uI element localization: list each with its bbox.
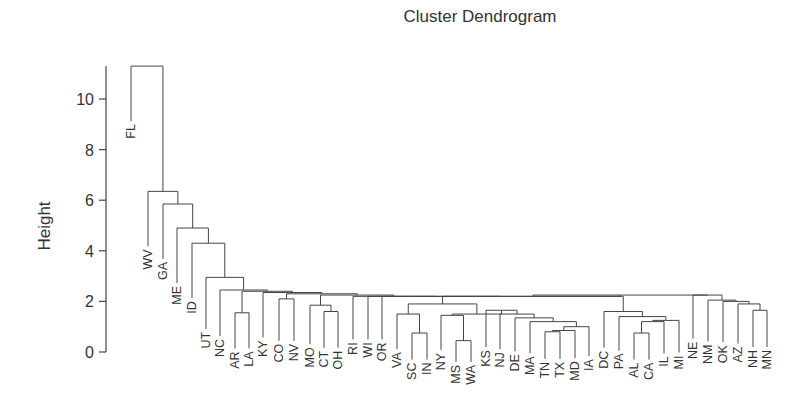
leaf-label: MI: [672, 356, 686, 370]
y-tick-label: 10: [76, 91, 94, 108]
leaf-label: WV: [141, 249, 155, 270]
leaf-label: KY: [256, 340, 270, 357]
leaf-label: OR: [375, 342, 389, 361]
y-tick-label: 8: [85, 142, 94, 159]
leaf-label: TX: [553, 361, 567, 378]
leaf-label: OK: [716, 345, 730, 364]
leaf-label: DC: [597, 351, 611, 369]
y-tick-label: 6: [85, 192, 94, 209]
leaf-label: WA: [464, 364, 478, 384]
leaf-label: OH: [331, 351, 345, 370]
leaf-label: SC: [405, 363, 419, 380]
leaf-label: MD: [568, 361, 582, 380]
leaf-label: LA: [242, 351, 256, 367]
leaf-label: NE: [686, 342, 700, 359]
leaf-label: IL: [657, 356, 671, 366]
leaf-label: NY: [434, 352, 448, 370]
y-axis: 0246810: [76, 66, 106, 361]
leaf-label: RI: [346, 342, 360, 355]
leaf-label: ME: [170, 286, 184, 305]
leaf-label: NC: [213, 339, 227, 357]
leaf-label: NJ: [493, 352, 507, 367]
leaf-labels: ARLACONVCTOHMOSCINVAMSWANYTNTXMDIAMADENJ…: [124, 124, 774, 385]
leaf-label: FL: [124, 124, 138, 139]
leaf-label: CO: [272, 344, 286, 363]
y-tick-label: 0: [85, 344, 94, 361]
leaf-label: UT: [199, 332, 213, 349]
dendrogram-tree: [131, 66, 767, 362]
leaf-label: CT: [317, 350, 331, 367]
leaf-label: PA: [612, 353, 626, 369]
y-axis-label: Height: [35, 201, 54, 250]
leaf-label: NM: [701, 344, 715, 363]
leaf-label: CA: [642, 362, 656, 380]
leaf-label: MO: [303, 347, 317, 367]
leaf-label: IA: [582, 358, 596, 370]
leaf-label: VA: [390, 351, 404, 367]
y-tick-label: 2: [85, 293, 94, 310]
leaf-label: MS: [449, 365, 463, 384]
leaf-label: AL: [627, 363, 641, 378]
leaf-label: KS: [479, 350, 493, 367]
leaf-label: NH: [746, 350, 760, 368]
leaf-label: NV: [287, 343, 301, 361]
dendrogram-chart: Cluster Dendrogram Height 0246810 ARLACO…: [0, 0, 804, 415]
leaf-label: AR: [228, 351, 242, 368]
chart-title: Cluster Dendrogram: [403, 7, 556, 26]
leaf-label: GA: [156, 261, 170, 280]
leaf-label: MA: [523, 356, 537, 375]
leaf-label: AZ: [731, 346, 745, 362]
leaf-label: TN: [538, 362, 552, 379]
leaf-label: IN: [420, 363, 434, 376]
leaf-label: MN: [760, 350, 774, 369]
leaf-label: WI: [361, 342, 375, 357]
y-tick-label: 4: [85, 243, 94, 260]
leaf-label: ID: [185, 301, 199, 314]
leaf-label: DE: [508, 354, 522, 371]
